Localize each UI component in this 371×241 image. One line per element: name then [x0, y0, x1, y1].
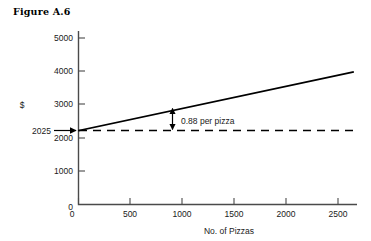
x-axis-ticks: [79, 198, 339, 205]
x-tick-label-500: 500: [123, 209, 137, 219]
x-tick-label-2500: 2500: [329, 209, 348, 219]
y-axis-tick-labels: 5000 4000 3000 2000 1000 0: [54, 33, 73, 212]
y-axis-label: $: [20, 100, 25, 110]
y-tick-label-2000: 2000: [54, 133, 73, 143]
y-tick-label-5000: 5000: [54, 33, 73, 43]
y-axis-ticks: [79, 38, 86, 171]
y-tick-label-3000: 3000: [54, 99, 73, 109]
y-tick-label-1000: 1000: [54, 166, 73, 176]
intercept-callout-label: 2025: [32, 126, 51, 136]
x-tick-label-2000: 2000: [277, 209, 296, 219]
x-tick-label-0: 0: [70, 209, 75, 219]
x-tick-label-1500: 1500: [225, 209, 244, 219]
chart-canvas: 5000 4000 3000 2000 1000 0 $ 0 500 1000 …: [0, 0, 371, 241]
y-tick-label-4000: 4000: [54, 66, 73, 76]
slope-annotation: 0.88 per pizza: [173, 109, 235, 130]
x-axis-tick-labels: 0 500 1000 1500 2000 2500: [70, 209, 348, 219]
slope-annotation-label: 0.88 per pizza: [181, 116, 235, 126]
figure-container: Figure A.6 5000 400: [0, 0, 371, 241]
x-tick-label-1000: 1000: [173, 209, 192, 219]
x-axis-label: No. of Pizzas: [204, 226, 254, 236]
